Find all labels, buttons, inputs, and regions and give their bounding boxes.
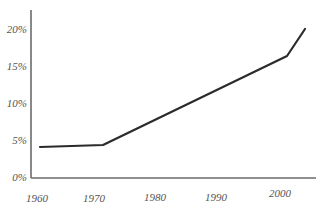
line-chart-figure: 20% 15% 10% 5% 0% 1960 1970 1980 1990 20… [0, 0, 327, 217]
y-tick-label-15: 15% [7, 60, 27, 72]
y-tick-label-0: 0% [12, 171, 27, 183]
x-tick-label-1970: 1970 [83, 192, 106, 204]
y-tick-label-5: 5% [12, 134, 27, 146]
chart-background [0, 0, 327, 217]
y-tick-label-20: 20% [7, 23, 27, 35]
y-tick-label-10: 10% [7, 97, 27, 109]
x-tick-label-1980: 1980 [144, 191, 167, 203]
chart-canvas: 20% 15% 10% 5% 0% 1960 1970 1980 1990 20… [0, 0, 327, 217]
x-tick-label-1990: 1990 [205, 191, 228, 203]
x-tick-label-2000: 2000 [269, 187, 292, 199]
x-tick-label-1960: 1960 [26, 192, 49, 204]
